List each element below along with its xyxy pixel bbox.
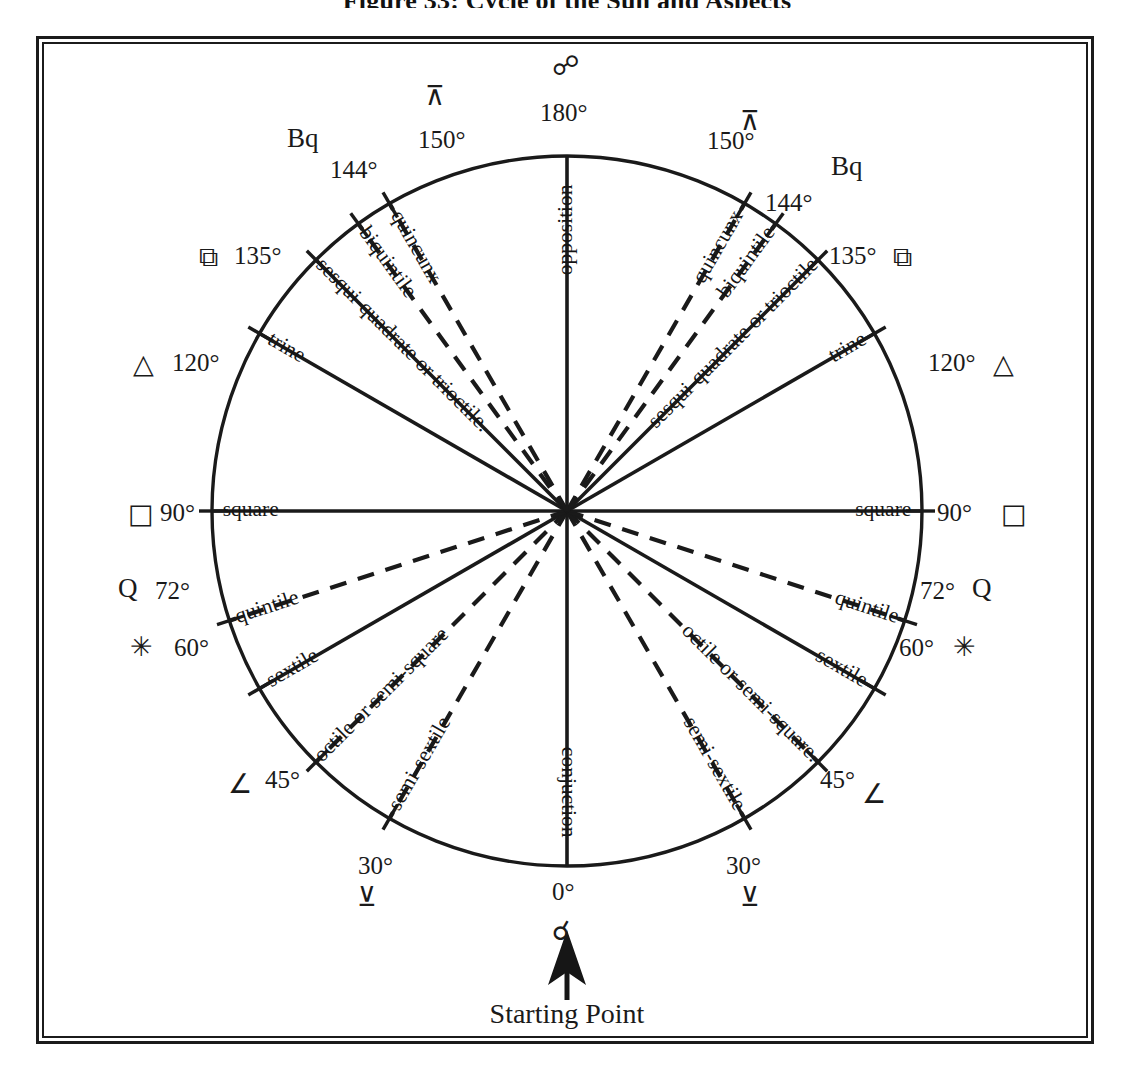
- degree-label-30-right: 30°: [726, 853, 761, 878]
- starting-point-caption: Starting Point: [0, 998, 1134, 1030]
- sextile-symbol-icon-right: ✳: [953, 633, 976, 660]
- biquintile-symbol-icon-left: Bq: [287, 125, 319, 152]
- semi-sextile-symbol-icon-right: ⊻: [740, 883, 760, 910]
- degree-label-90-right: 90°: [937, 500, 972, 525]
- spoke-label-30-left: semi-sextile: [383, 712, 456, 814]
- square-symbol-icon-left: □: [128, 500, 154, 527]
- spoke-label-180-right: opposition: [553, 184, 577, 275]
- spoke-label-90-left: square: [223, 497, 279, 521]
- spoke-label-72-left: quintile: [232, 585, 302, 628]
- spoke-label-90-right: square: [855, 497, 911, 521]
- spoke-label-30-right: semi-sextile: [679, 712, 752, 814]
- opposition-symbol-icon-top: ☍: [552, 52, 579, 79]
- spoke-label-120-left: trine: [264, 327, 310, 367]
- degree-label-135-right: 135°: [829, 243, 877, 268]
- degree-label-45-left: 45°: [265, 767, 300, 792]
- degree-label-0-bottom: 0°: [552, 879, 575, 904]
- semi-sextile-symbol-icon-left: ⊻: [357, 883, 377, 910]
- degree-label-90-left: 90°: [160, 500, 195, 525]
- quintile-symbol-icon-right: Q: [972, 575, 992, 602]
- spoke-label-60-right: sextile: [812, 643, 873, 692]
- degree-label-135-left: 135°: [234, 243, 282, 268]
- spoke-label-60-left: sextile: [262, 643, 323, 692]
- trine-symbol-icon-right: △: [993, 350, 1014, 377]
- trine-symbol-icon-left: △: [133, 350, 154, 377]
- degree-label-45-right: 45°: [820, 767, 855, 792]
- semi-square-symbol-icon-left: ∠: [228, 770, 252, 797]
- degree-label-180-top: 180°: [540, 100, 588, 125]
- square-symbol-icon-right: □: [1001, 500, 1027, 527]
- degree-label-72-left: 72°: [155, 578, 190, 603]
- quincunx-symbol-icon-right: ⊼: [740, 107, 760, 134]
- figure-page: Figure 33: Cycle of the Sun and Aspects …: [0, 0, 1134, 1080]
- degree-label-144-right: 144°: [765, 190, 813, 215]
- quincunx-symbol-icon-left: ⊼: [425, 82, 445, 109]
- conjunction-symbol-icon: ☌: [552, 918, 570, 945]
- semi-square-symbol-icon-right: ∠: [862, 780, 886, 807]
- sextile-symbol-icon-left: ✳: [130, 633, 153, 660]
- degree-label-60-right: 60°: [899, 635, 934, 660]
- degree-label-150-left: 150°: [418, 127, 466, 152]
- biquintile-symbol-icon-right: Bq: [831, 153, 863, 180]
- degree-label-72-right: 72°: [920, 578, 955, 603]
- sesquiquadrate-symbol-icon-right: ⧉: [893, 243, 912, 270]
- spoke-label-120-right: trine: [824, 327, 870, 367]
- spoke-label-0-right: conjuction: [557, 747, 581, 838]
- spoke-label-72-right: quintile: [832, 585, 902, 628]
- degree-label-120-left: 120°: [172, 350, 220, 375]
- degree-label-120-right: 120°: [928, 350, 976, 375]
- degree-label-60-left: 60°: [174, 635, 209, 660]
- degree-label-30-left: 30°: [358, 853, 393, 878]
- sesquiquadrate-symbol-icon-left: ⧉: [199, 243, 218, 270]
- quintile-symbol-icon-left: Q: [118, 575, 138, 602]
- degree-label-144-left: 144°: [330, 157, 378, 182]
